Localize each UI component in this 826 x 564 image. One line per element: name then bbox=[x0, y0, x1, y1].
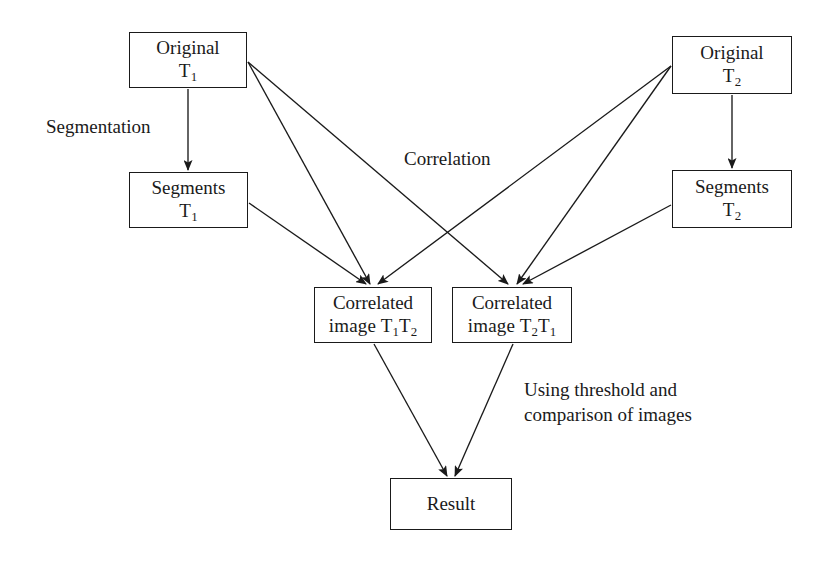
t-symbol-first: T bbox=[381, 315, 393, 336]
segments-t2-box[interactable]: Segments T2 bbox=[672, 170, 792, 228]
result-box[interactable]: Result bbox=[390, 478, 512, 530]
original-t1-box[interactable]: Original T1 bbox=[129, 32, 247, 88]
using-threshold-label: Using threshold and comparison of images bbox=[524, 378, 692, 427]
original-t2-box[interactable]: Original T2 bbox=[672, 36, 792, 94]
correlated-t1t2-label-line1: Correlated bbox=[333, 291, 413, 314]
original-t2-label-line2: T2 bbox=[723, 64, 741, 89]
t-symbol: T bbox=[179, 200, 191, 221]
segments-t1-box[interactable]: Segments T1 bbox=[129, 172, 248, 228]
segments-t1-label-line2: T1 bbox=[179, 199, 197, 224]
correlated-t2t1-label-line1: Correlated bbox=[472, 291, 552, 314]
result-label: Result bbox=[427, 492, 476, 515]
segments-t2-label-line1: Segments bbox=[695, 175, 769, 198]
arrow-original-t2-to-correlated-t1t2 bbox=[378, 66, 671, 284]
arrow-correlated-t1t2-to-result bbox=[374, 344, 447, 476]
image-word: image bbox=[329, 315, 381, 336]
t-symbol: T bbox=[723, 65, 735, 86]
arrow-original-t1-to-correlated-t1t2 bbox=[248, 62, 370, 284]
correlated-t1t2-label-line2: image T1T2 bbox=[329, 314, 418, 339]
original-t2-label-line1: Original bbox=[700, 41, 763, 64]
correlated-image-t1t2-box[interactable]: Correlated image T1T2 bbox=[314, 287, 432, 343]
segmentation-label: Segmentation bbox=[46, 115, 150, 140]
t-subscript-second: 1 bbox=[550, 324, 556, 339]
t-symbol-second: T bbox=[399, 315, 411, 336]
flow-diagram: Original T1 Original T2 Segments T1 Segm… bbox=[0, 0, 826, 564]
correlated-image-t2t1-box[interactable]: Correlated image T2T1 bbox=[452, 287, 572, 343]
image-word: image bbox=[468, 315, 520, 336]
t-subscript: 2 bbox=[735, 74, 741, 89]
t-subscript: 1 bbox=[191, 209, 197, 224]
t-symbol: T bbox=[179, 60, 191, 81]
t-subscript-second: 2 bbox=[411, 324, 417, 339]
arrow-original-t2-to-correlated-t2t1 bbox=[517, 66, 671, 284]
segments-t1-label-line1: Segments bbox=[152, 176, 226, 199]
t-subscript: 1 bbox=[191, 69, 197, 84]
t-symbol: T bbox=[723, 199, 735, 220]
t-symbol-first: T bbox=[520, 315, 532, 336]
t-subscript: 2 bbox=[735, 208, 741, 223]
segments-t2-label-line2: T2 bbox=[723, 198, 741, 223]
arrow-original-t1-to-correlated-t2t1 bbox=[248, 62, 508, 284]
t-symbol-second: T bbox=[538, 315, 550, 336]
original-t1-label-line1: Original bbox=[156, 36, 219, 59]
arrow-correlated-t2t1-to-result bbox=[455, 344, 513, 476]
correlation-label: Correlation bbox=[404, 147, 491, 172]
original-t1-label-line2: T1 bbox=[179, 59, 197, 84]
correlated-t2t1-label-line2: image T2T1 bbox=[468, 314, 557, 339]
